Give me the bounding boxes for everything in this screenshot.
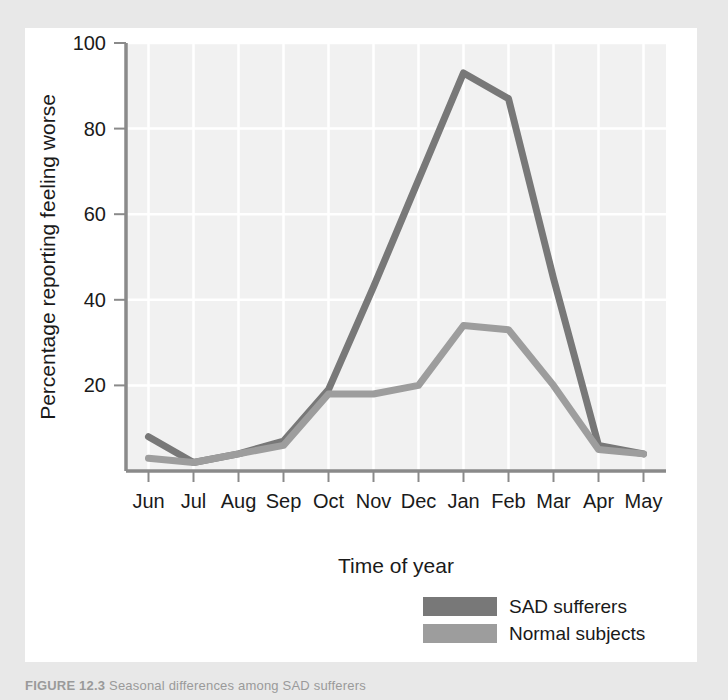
x-tick-label: Dec xyxy=(401,490,437,512)
x-tick-label: Jun xyxy=(132,490,164,512)
x-tick-label: Jul xyxy=(181,490,207,512)
figure-panel: 20406080100 JunJulAugSepOctNovDecJanFebM… xyxy=(25,28,697,662)
y-tick-label: 60 xyxy=(84,203,106,225)
figure-caption-label: FIGURE 12.3 xyxy=(25,678,105,693)
figure-caption-body: Seasonal differences among SAD sufferers xyxy=(109,678,366,693)
y-tick-label: 80 xyxy=(84,118,106,140)
x-tick-label: Sep xyxy=(266,490,302,512)
legend-swatch xyxy=(423,624,497,643)
x-tick-label: Oct xyxy=(313,490,345,512)
chart-legend: SAD sufferersNormal subjects xyxy=(423,596,645,644)
x-tick-label: Jan xyxy=(447,490,479,512)
y-axis-ticks: 20406080100 xyxy=(73,32,126,396)
y-axis-title: Percentage reporting feeling worse xyxy=(36,94,59,420)
x-tick-label: May xyxy=(625,490,663,512)
x-tick-label: Feb xyxy=(491,490,525,512)
x-tick-label: Aug xyxy=(221,490,257,512)
x-tick-label: Nov xyxy=(356,490,392,512)
y-tick-label: 100 xyxy=(73,32,106,54)
x-axis-ticks: JunJulAugSepOctNovDecJanFebMarAprMay xyxy=(132,471,662,512)
x-tick-label: Mar xyxy=(536,490,571,512)
x-tick-label: Apr xyxy=(583,490,614,512)
seasonal-line-chart: 20406080100 JunJulAugSepOctNovDecJanFebM… xyxy=(25,28,697,662)
figure-caption: FIGURE 12.3 Seasonal differences among S… xyxy=(25,678,697,693)
chart-area: 20406080100 JunJulAugSepOctNovDecJanFebM… xyxy=(25,28,697,662)
legend-label: Normal subjects xyxy=(509,623,645,644)
y-tick-label: 20 xyxy=(84,374,106,396)
legend-label: SAD sufferers xyxy=(509,596,627,617)
x-axis-title: Time of year xyxy=(338,554,454,577)
y-tick-label: 40 xyxy=(84,289,106,311)
legend-swatch xyxy=(423,597,497,616)
